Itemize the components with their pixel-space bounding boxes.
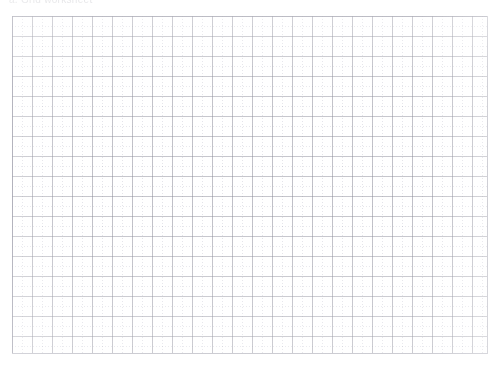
- grid-major-lines: [12, 16, 487, 353]
- header-strip: a. Grid worksheet: [0, 0, 502, 9]
- graph-paper-grid[interactable]: [12, 16, 487, 353]
- worksheet-page: a. Grid worksheet: [0, 0, 502, 372]
- page-title: a. Grid worksheet: [9, 0, 92, 5]
